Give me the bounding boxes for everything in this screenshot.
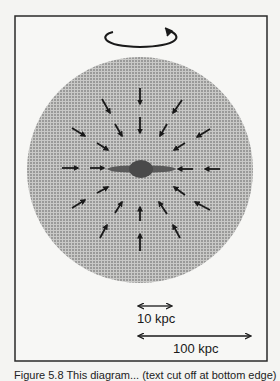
scale-bar-label: 100 kpc [173,341,219,356]
figure-caption: Figure 5.8 This diagram... (text cut off… [14,369,277,381]
scale-bar-label: 10 kpc [137,311,176,326]
